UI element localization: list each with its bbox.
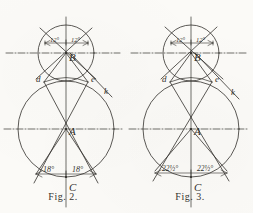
scanned-figure-page: B A C d e k 12° 12° 18° 18° Fig. 2. <box>0 0 253 213</box>
point-b-dot <box>65 52 67 54</box>
point-c-dot <box>190 176 192 178</box>
figure-fig-3: B A C d e k 12° 12° 22½° 22½° Fig. 3. <box>127 11 253 213</box>
fig-2-geometry <box>4 17 122 207</box>
upper-angle-right-label: 12° <box>71 36 81 43</box>
fig-3-geometry <box>129 17 249 207</box>
point-label-B: B <box>69 51 76 63</box>
point-label-d: d <box>162 74 167 84</box>
point-b-dot <box>190 52 192 54</box>
fig-2-drawing: B A C d e k 12° 12° 18° 18° <box>0 11 126 213</box>
point-label-B: B <box>194 51 201 63</box>
upper-angle-left-label: 12° <box>176 36 186 43</box>
lower-angle-left-label: 22½° <box>162 164 178 173</box>
figure-caption-fig-2: Fig. 2. <box>0 191 126 202</box>
point-c-dot <box>65 176 67 178</box>
lower-angle-right-label: 22½° <box>197 164 213 173</box>
point-label-e: e <box>215 74 219 84</box>
point-label-e: e <box>91 74 95 84</box>
lower-angle-left-label: 18° <box>43 165 55 174</box>
point-label-A: A <box>193 125 201 137</box>
point-label-A: A <box>68 125 76 137</box>
figure-caption-fig-3: Fig. 3. <box>127 191 253 202</box>
upper-angle-right-label: 12° <box>196 36 206 43</box>
figure-fig-2: B A C d e k 12° 12° 18° 18° Fig. 2. <box>0 11 126 213</box>
point-a-dot <box>190 128 192 130</box>
cropped-header-text <box>0 0 253 11</box>
point-label-d: d <box>36 74 41 84</box>
point-label-k: k <box>104 86 109 96</box>
upper-angle-left-label: 12° <box>50 36 60 43</box>
fig-3-drawing: B A C d e k 12° 12° 22½° 22½° <box>127 11 253 213</box>
point-a-dot <box>65 128 67 130</box>
lower-angle-right-label: 18° <box>72 165 84 174</box>
